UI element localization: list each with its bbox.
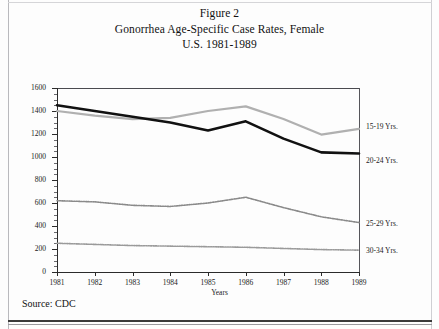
legend-label-25-29-yrs: 25-29 Yrs. — [366, 219, 398, 228]
figure-page: Figure 2 Gonorrhea Age-Specific Case Rat… — [0, 0, 439, 329]
legend-label-20-24-yrs: 20-24 Yrs. — [366, 156, 398, 165]
series-line — [57, 197, 359, 222]
series-line — [57, 105, 359, 153]
series-line — [57, 243, 359, 250]
source-note: Source: CDC — [22, 298, 76, 309]
legend-label-15-19-yrs: 15-19 Yrs. — [366, 122, 398, 131]
legend-label-30-34-yrs: 30-34 Yrs. — [366, 246, 398, 255]
